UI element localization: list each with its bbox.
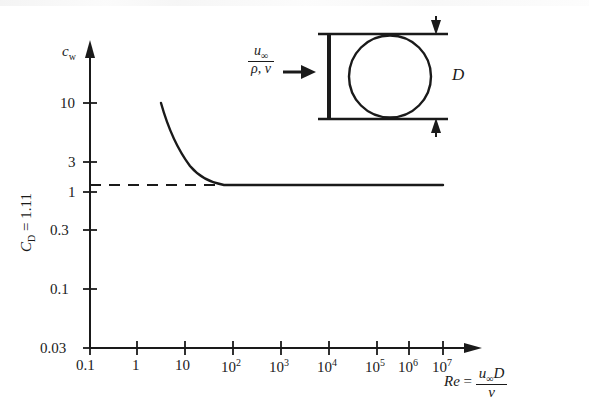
x-axis xyxy=(90,343,482,353)
x-tick-label-5: 104 xyxy=(317,358,337,375)
x-tick-label-4: 103 xyxy=(269,358,289,375)
inset-flow-denominator: ρ, ν xyxy=(248,61,274,76)
y-tick-label-4: 3 xyxy=(68,155,76,170)
asymptote-annotation: CD = 1.11 xyxy=(18,193,37,252)
asymptote-annotation-sub: D xyxy=(26,235,37,242)
x-axis-title: Re = u∞D ν xyxy=(444,366,507,400)
chart-vector-layer xyxy=(0,0,589,409)
inset-flow-label: u∞ ρ, ν xyxy=(248,44,274,76)
inset-cylinder-diagram xyxy=(283,16,448,137)
y-tick-label-5: 10 xyxy=(60,96,75,111)
x-axis-title-numerator: u∞D xyxy=(476,366,507,384)
y-axis-title-symbol: c xyxy=(62,43,69,59)
x-tick-label-0: 0.1 xyxy=(76,358,95,373)
y-axis xyxy=(85,40,95,348)
asymptote-annotation-value: = 1.11 xyxy=(18,193,34,235)
figure-canvas: 0.03 0.1 0.3 1 3 10 0.1 1 10 102 103 104… xyxy=(0,0,589,409)
x-axis-title-equals: = xyxy=(464,373,472,389)
x-tick-label-6: 105 xyxy=(365,358,385,375)
x-tick-label-2: 10 xyxy=(175,358,190,373)
y-tick-label-0: 0.03 xyxy=(40,341,66,356)
x-axis-title-denominator: ν xyxy=(476,384,507,400)
y-axis-title-subscript: w xyxy=(69,51,76,62)
x-tick-label-1: 1 xyxy=(132,358,140,373)
y-axis-title: cw xyxy=(62,44,76,62)
y-tick-label-2: 0.3 xyxy=(50,223,69,238)
asymptote-annotation-C: C xyxy=(18,242,34,252)
x-axis-title-name: Re xyxy=(444,373,460,389)
y-tick-label-1: 0.1 xyxy=(50,282,69,297)
inset-flow-fraction: u∞ ρ, ν xyxy=(248,44,274,76)
inset-diameter-label: D xyxy=(452,66,464,83)
inset-flow-numerator: u∞ xyxy=(248,44,274,61)
x-axis-title-fraction: u∞D ν xyxy=(476,366,507,400)
x-tick-label-3: 102 xyxy=(221,358,241,375)
y-tick-label-3: 1 xyxy=(68,185,76,200)
x-tick-label-7: 106 xyxy=(398,358,418,375)
